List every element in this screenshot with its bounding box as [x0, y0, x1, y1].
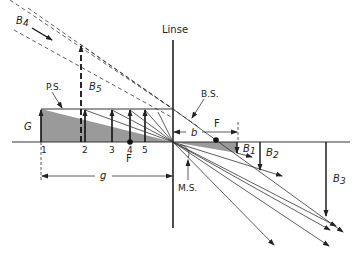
- position-5: 5: [142, 145, 148, 155]
- position-3: 3: [109, 145, 115, 155]
- parallel-ray-label: P.S.: [46, 82, 61, 92]
- bs-pointer: [192, 99, 204, 118]
- lens-diagram: Linse G g b F F P.S. B.S. M.S. 1 2 3 4 5…: [0, 0, 356, 255]
- image-b5-label: B5: [89, 81, 102, 94]
- position-2: 2: [82, 145, 88, 155]
- image-b1-label: B1: [243, 143, 256, 156]
- b4-direction-arrow: [32, 28, 52, 40]
- ps-pointer: [52, 92, 62, 108]
- image-distance-label: b: [191, 127, 197, 138]
- focal-point-right: [213, 137, 219, 143]
- position-1: 1: [41, 145, 47, 155]
- focal-ray-label: B.S.: [201, 89, 219, 99]
- center-ray-label: M.S.: [178, 183, 197, 193]
- focal-right-label: F: [214, 118, 220, 129]
- position-4: 4: [127, 145, 133, 155]
- object-label: G: [24, 121, 32, 132]
- image-b4-label: B4: [16, 15, 29, 28]
- lens-label: Linse: [162, 24, 188, 35]
- focal-point-left: [127, 139, 133, 145]
- object-shading: [41, 109, 173, 142]
- image-b3-label: B3: [333, 173, 346, 186]
- object-distance-label: g: [100, 170, 106, 181]
- image-b2-label: B2: [266, 147, 279, 160]
- image-rays: [173, 109, 343, 246]
